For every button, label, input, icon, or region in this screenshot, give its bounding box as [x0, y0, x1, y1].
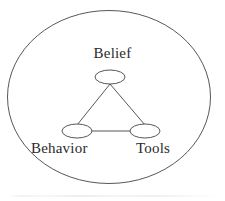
edge-belief-behavior [77, 84, 110, 125]
node-belief-ellipse [95, 70, 125, 84]
node-label-belief: Belief [0, 46, 225, 61]
outer-boundary-ellipse [8, 11, 211, 184]
page-edge-artifact [8, 195, 217, 197]
concept-diagram: Belief Behavior Tools [0, 0, 225, 201]
diagram-canvas [0, 0, 225, 201]
node-label-behavior: Behavior [31, 141, 88, 156]
edge-belief-tools [110, 84, 145, 125]
node-tools-ellipse [130, 124, 160, 138]
node-behavior-ellipse [62, 124, 92, 138]
node-label-tools: Tools [136, 141, 170, 156]
